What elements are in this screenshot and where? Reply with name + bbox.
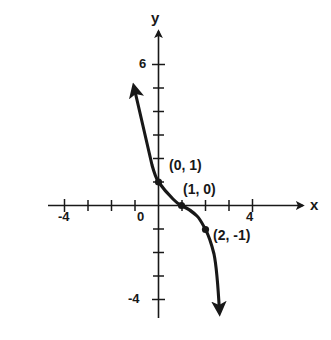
x-tick-label-4: 4: [246, 210, 253, 223]
data-point-1-0: [178, 202, 185, 209]
origin-label: 0: [137, 210, 144, 223]
y-tick-label-neg4: -4: [128, 292, 140, 305]
data-point-0-1: [155, 178, 162, 185]
point-label-2-neg1: (2, -1): [213, 228, 250, 242]
function-curve: [134, 87, 220, 312]
coordinate-plane-svg: [0, 0, 331, 340]
point-label-0-1: (0, 1): [169, 158, 202, 172]
data-point-2-neg1: [202, 226, 209, 233]
x-axis-label: x: [310, 197, 318, 212]
graph-figure: x y -4 4 6 -4 0 (0, 1) (1, 0) (2, -1): [0, 0, 331, 340]
y-tick-label-6: 6: [139, 57, 146, 70]
y-axis-label: y: [151, 10, 159, 25]
point-label-1-0: (1, 0): [183, 182, 216, 196]
x-tick-label-neg4: -4: [58, 210, 70, 223]
